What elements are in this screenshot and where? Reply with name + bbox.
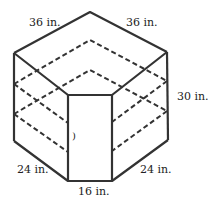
label-top-right: 36 in. [126, 16, 158, 29]
inner-mark: ) [72, 130, 76, 141]
top-front-edges [14, 52, 167, 95]
label-top-left: 36 in. [29, 16, 61, 29]
label-bottom-front: 16 in. [78, 185, 110, 198]
right-outer-edge [167, 52, 168, 140]
shelf-2-back [14, 70, 167, 114]
label-height: 30 in. [177, 90, 209, 103]
label-bottom-left: 24 in. [17, 163, 49, 176]
label-bottom-right: 24 in. [140, 163, 172, 176]
shelf-1-back [14, 40, 167, 84]
shelf-unit-diagram: 36 in. 36 in. 30 in. 24 in. 24 in. 16 in… [0, 0, 211, 200]
